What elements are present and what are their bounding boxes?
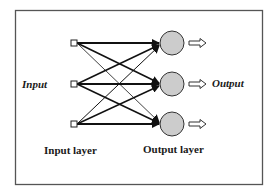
neural-network-diagram: Input Output Input layer Output layer [0, 0, 275, 193]
output-side-label: Output [212, 77, 245, 89]
output-layer-nodes [160, 31, 184, 136]
diagram-frame [16, 11, 263, 185]
input-side-label: Input [21, 78, 48, 90]
input-node-1 [71, 40, 77, 46]
output-node-1 [160, 31, 184, 55]
output-node-3 [160, 112, 184, 136]
output-node-2 [160, 72, 184, 96]
input-node-3 [71, 121, 77, 127]
input-layer-label: Input layer [44, 144, 97, 156]
input-node-2 [71, 81, 77, 87]
output-layer-label: Output layer [143, 143, 204, 155]
